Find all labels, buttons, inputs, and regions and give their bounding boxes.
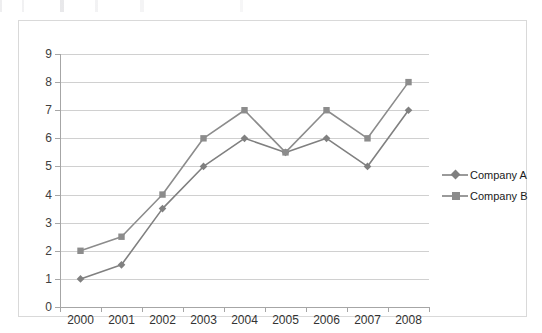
y-axis-tick-mark — [55, 166, 60, 167]
y-axis-tick-mark — [55, 138, 60, 139]
x-axis-tick-mark — [429, 307, 430, 312]
y-axis-tick-label: 7 — [28, 103, 52, 117]
y-axis-tick-label: 2 — [28, 244, 52, 258]
x-axis-tick-label: 2003 — [190, 313, 217, 327]
data-point-marker[interactable] — [159, 191, 165, 197]
data-point-marker[interactable] — [241, 107, 247, 113]
y-axis-tick-mark — [55, 110, 60, 111]
y-axis-tick-label: 0 — [28, 300, 52, 314]
data-point-marker[interactable] — [364, 135, 370, 141]
x-axis-tick-mark — [60, 307, 61, 312]
x-axis-tick-label: 2007 — [354, 313, 381, 327]
y-axis-tick-mark — [55, 251, 60, 252]
x-axis-tick-label: 2006 — [313, 313, 340, 327]
legend-label-company-a: Company A — [468, 169, 527, 181]
data-point-marker[interactable] — [77, 248, 83, 254]
x-axis-line — [60, 307, 429, 308]
y-axis-tick-label: 6 — [28, 131, 52, 145]
y-axis-tick-mark — [55, 279, 60, 280]
x-axis-tick-label: 2004 — [231, 313, 258, 327]
chart-legend: Company A Company B — [442, 164, 542, 206]
x-axis-tick-mark — [347, 307, 348, 312]
legend-item-company-b[interactable]: Company B — [442, 185, 542, 206]
diamond-marker-icon — [442, 169, 468, 181]
scan-artifact-strip — [0, 0, 542, 12]
data-point-marker[interactable] — [200, 135, 206, 141]
y-axis-tick-mark — [55, 82, 60, 83]
chart-container: Company A Company B 01234567892000200120… — [18, 20, 527, 317]
data-point-marker[interactable] — [118, 234, 124, 240]
x-axis-tick-label: 2000 — [67, 313, 94, 327]
square-marker-icon — [442, 190, 468, 202]
x-axis-tick-label: 2005 — [272, 313, 299, 327]
data-point-marker[interactable] — [323, 107, 329, 113]
legend-label-company-b: Company B — [468, 190, 527, 202]
data-point-marker[interactable] — [282, 149, 288, 155]
x-axis-tick-mark — [183, 307, 184, 312]
x-axis-tick-mark — [306, 307, 307, 312]
x-axis-tick-mark — [388, 307, 389, 312]
x-axis-tick-mark — [101, 307, 102, 312]
legend-item-company-a[interactable]: Company A — [442, 164, 542, 185]
x-axis-tick-label: 2008 — [395, 313, 422, 327]
y-axis-tick-mark — [55, 54, 60, 55]
data-point-marker[interactable] — [77, 275, 85, 283]
data-point-marker[interactable] — [405, 79, 411, 85]
x-axis-tick-label: 2002 — [149, 313, 176, 327]
x-axis-tick-mark — [142, 307, 143, 312]
y-axis-tick-label: 5 — [28, 159, 52, 173]
y-axis-tick-mark — [55, 223, 60, 224]
y-axis-tick-label: 9 — [28, 47, 52, 61]
y-axis-tick-label: 4 — [28, 188, 52, 202]
y-axis-tick-label: 1 — [28, 272, 52, 286]
series-layer — [60, 54, 429, 307]
x-axis-tick-mark — [224, 307, 225, 312]
y-axis-tick-label: 3 — [28, 216, 52, 230]
x-axis-tick-label: 2001 — [108, 313, 135, 327]
x-axis-tick-mark — [265, 307, 266, 312]
y-axis-tick-label: 8 — [28, 75, 52, 89]
y-axis-tick-mark — [55, 195, 60, 196]
